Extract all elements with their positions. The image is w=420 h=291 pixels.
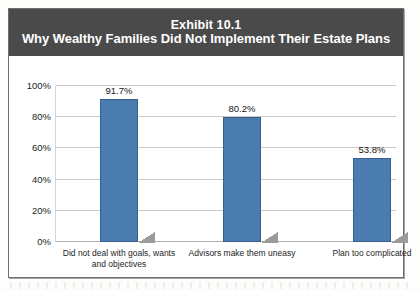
plot-area: 100%80%60%40%20%0% 91.7%80.2%53.8% <box>56 86 396 242</box>
plot-region: 100%80%60%40%20%0% 91.7%80.2%53.8% Did n… <box>9 56 403 277</box>
y-axis-tick-label: 40% <box>32 173 51 184</box>
category-label: Did not deal with goals, wants and objec… <box>55 248 183 270</box>
bar[interactable]: 91.7% <box>100 99 138 242</box>
y-axis-tick-label: 0% <box>37 236 51 247</box>
y-axis-tick-label: 100% <box>27 80 51 91</box>
bar-shadow <box>261 232 278 243</box>
category-label: Advisors make them uneasy <box>178 248 306 259</box>
bar-value-label: 53.8% <box>359 144 386 155</box>
scanned-page: Exhibit 10.1 Why Wealthy Families Did No… <box>0 0 420 291</box>
bar-value-label: 80.2% <box>229 103 256 114</box>
y-axis-spine <box>55 86 56 242</box>
bar[interactable]: 53.8% <box>353 158 391 242</box>
bar-value-label: 91.7% <box>106 85 133 96</box>
chart-title-banner: Exhibit 10.1 Why Wealthy Families Did No… <box>9 9 403 56</box>
y-axis-tick-label: 20% <box>32 204 51 215</box>
scan-artifact <box>10 282 410 289</box>
chart-title: Why Wealthy Families Did Not Implement T… <box>22 32 390 47</box>
y-axis-tick-label: 80% <box>32 111 51 122</box>
exhibit-number: Exhibit 10.1 <box>171 18 242 32</box>
bar-shadow <box>138 232 155 243</box>
bar[interactable]: 80.2% <box>223 117 261 242</box>
category-label: Plan too complicated <box>308 248 420 259</box>
y-axis-tick-label: 60% <box>32 142 51 153</box>
bar-shadow <box>391 232 408 243</box>
chart-frame: Exhibit 10.1 Why Wealthy Families Did No… <box>8 8 404 278</box>
